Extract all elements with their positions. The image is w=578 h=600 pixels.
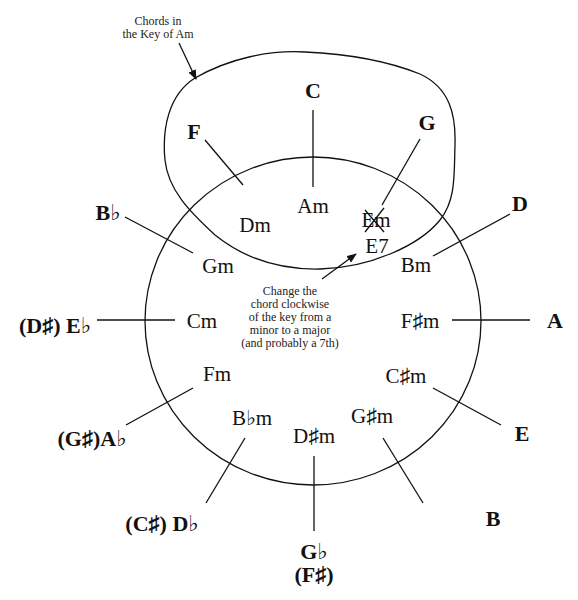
change-note-line-2: chord clockwise <box>251 297 329 311</box>
minor-bbm: B♭m <box>232 406 272 430</box>
change-note-line-3: of the key from a <box>249 310 332 324</box>
minor-cm: Cm <box>187 309 217 333</box>
replacement-e7: E7 <box>365 234 388 258</box>
major-gb-alt: (F♯) <box>294 562 333 587</box>
major-db: (C♯) D♭ <box>125 511 198 536</box>
minor-am: Am <box>297 194 329 218</box>
key-label-arrow-icon <box>179 43 196 79</box>
change-note-line-1: Change the <box>263 284 317 298</box>
major-eb: (D♯) E♭ <box>19 313 91 338</box>
minor-gm: Gm <box>202 254 234 278</box>
key-label-line-2: the Key of Am <box>123 27 195 41</box>
minor-dm: Dm <box>239 213 271 237</box>
minor-csm: C♯m <box>386 364 427 388</box>
major-b: B <box>486 506 501 531</box>
major-f: F <box>187 119 200 144</box>
major-c: C <box>305 78 321 103</box>
minor-fsm: F♯m <box>401 309 440 333</box>
minor-bm: Bm <box>401 253 431 277</box>
major-bb: B♭ <box>95 200 120 225</box>
change-note-line-5: (and probably a 7th) <box>241 336 339 350</box>
major-d: D <box>512 191 528 216</box>
minor-fm: Fm <box>203 362 231 386</box>
change-note-arrow-icon <box>322 254 356 279</box>
major-g: G <box>418 110 435 135</box>
circle-of-fifths-diagram: Chords in the Key of Am C G D A E B G♭ (… <box>0 0 578 600</box>
major-gb: G♭ <box>300 539 328 564</box>
major-a: A <box>547 308 563 333</box>
key-label-line-1: Chords in <box>134 14 181 28</box>
change-note-line-4: minor to a major <box>250 323 330 337</box>
minor-gsm: G♯m <box>351 404 393 428</box>
major-e: E <box>515 421 530 446</box>
minor-dsm: D♯m <box>293 424 335 448</box>
major-ab: (G♯)A♭ <box>57 426 126 451</box>
